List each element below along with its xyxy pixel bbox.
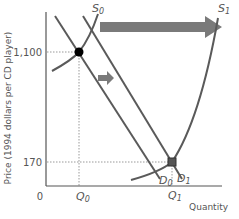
y-axis-title: Price (1994 dollars per CD player) [3,32,13,185]
d0-curve [55,16,160,179]
supply-shift-arrow [100,16,222,38]
tick-170: 170 [23,157,42,168]
s1-label: S1 [218,2,230,16]
x-axis-title: Quantity [189,202,229,212]
q0-label: Q0 [76,190,90,204]
s0-label: S0 [92,2,104,16]
d1-label: D1 [177,172,191,186]
new-equilibrium-point [168,158,176,166]
demand-shift-arrow [98,71,114,85]
supply-demand-chart: S0 S1 D0 D1 1,100 170 0 Q0 Q1 Quantity P… [0,0,239,219]
origin-label: 0 [37,191,43,202]
tick-1100: 1,100 [13,47,42,58]
d1-curve [83,16,182,179]
chart-canvas: S0 S1 D0 D1 1,100 170 0 Q0 Q1 Quantity P… [0,0,239,219]
d0-label: D0 [159,174,173,188]
initial-equilibrium-point [75,48,84,57]
q1-label: Q1 [168,189,182,203]
